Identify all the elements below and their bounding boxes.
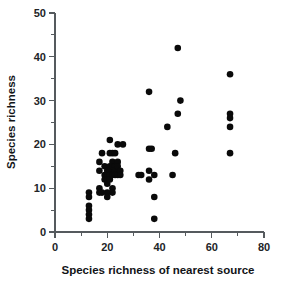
data-point (96, 159, 103, 166)
data-point (146, 89, 153, 96)
data-points-layer (86, 45, 234, 222)
data-point (227, 150, 234, 157)
data-point (174, 110, 181, 117)
data-point (151, 194, 158, 201)
data-point (107, 137, 114, 144)
x-tick-label: 80 (258, 241, 270, 253)
plot-canvas: 01020304050 020406080 Species richness o… (0, 0, 286, 281)
y-tick-label: 20 (34, 138, 46, 150)
x-tick-label: 60 (206, 241, 218, 253)
data-point (112, 150, 119, 157)
y-axis-title: Species richness (5, 75, 17, 169)
data-point (109, 189, 116, 196)
x-tick-label: 40 (153, 241, 165, 253)
data-point (164, 124, 171, 131)
data-point (120, 141, 127, 148)
data-point (151, 216, 158, 223)
data-point (172, 150, 179, 157)
data-point (138, 172, 145, 179)
x-axis: 020406080 (52, 232, 270, 253)
data-point (227, 115, 234, 122)
x-tick-label: 20 (101, 241, 113, 253)
data-point (99, 150, 106, 157)
data-point (86, 194, 93, 201)
data-point (146, 167, 153, 174)
y-tick-label: 10 (34, 182, 46, 194)
y-tick-label: 30 (34, 95, 46, 107)
scatter-plot-figure: 01020304050 020406080 Species richness o… (0, 0, 286, 281)
data-point (146, 176, 153, 183)
data-point (151, 172, 158, 179)
data-point (117, 172, 124, 179)
data-point (86, 216, 93, 223)
y-tick-label: 50 (34, 7, 46, 19)
y-axis: 01020304050 (34, 7, 55, 238)
data-point (174, 45, 181, 52)
data-point (96, 167, 103, 174)
y-tick-label: 40 (34, 51, 46, 63)
data-point (227, 124, 234, 131)
data-point (104, 194, 111, 201)
x-tick-label: 0 (52, 241, 58, 253)
data-point (148, 145, 155, 152)
data-point (227, 71, 234, 78)
y-tick-label: 0 (40, 226, 46, 238)
x-axis-title: Species richness of nearest source (61, 264, 254, 276)
data-point (177, 97, 184, 104)
data-point (169, 172, 176, 179)
